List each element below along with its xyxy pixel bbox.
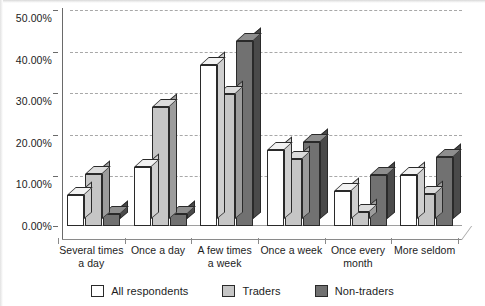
y-axis-tick-label: 50.00%	[16, 13, 52, 23]
bar-chart: 0.00%10.00%20.00%30.00%40.00%50.00% Seve…	[0, 0, 485, 306]
y-axis-tick	[53, 226, 58, 227]
legend-item: Traders	[222, 285, 280, 297]
bar-group	[200, 8, 253, 226]
bar	[134, 167, 151, 226]
bar-group	[134, 8, 187, 226]
x-axis-label-line: a week	[191, 257, 258, 270]
x-axis-category-label: Once a day	[125, 244, 192, 257]
x-axis-label-line: Once every	[325, 244, 392, 257]
y-axis-tick	[53, 176, 58, 177]
bar-side-face	[235, 80, 243, 219]
bar-front-face	[400, 175, 417, 226]
x-axis-label-line: month	[325, 257, 392, 270]
bar-group	[400, 8, 453, 226]
bar-side-face	[169, 94, 177, 219]
x-axis-category-label: More seldom	[391, 244, 458, 257]
y-axis-tick-label: 10.00%	[16, 179, 52, 189]
y-axis-tick-label: 30.00%	[16, 96, 52, 106]
bar-group	[67, 8, 120, 226]
x-axis-line	[62, 239, 462, 240]
y-axis-tick-label: 40.00%	[16, 55, 52, 65]
y-axis-tick	[53, 10, 58, 11]
bar-front-face	[370, 175, 387, 226]
x-axis-category-label: A few timesa week	[191, 244, 258, 269]
legend-item: Non-traders	[315, 285, 394, 297]
x-axis-category-label: Several timesa day	[58, 244, 125, 269]
y-axis-tick	[53, 52, 58, 53]
legend-swatch-icon	[222, 285, 235, 297]
bar-front-face	[200, 65, 217, 226]
x-axis-label-line: More seldom	[391, 244, 458, 257]
legend-label: All respondents	[111, 285, 188, 297]
y-axis-tick-label: 0.00%	[22, 221, 52, 231]
bar-side-face	[320, 129, 328, 219]
y-axis-tick-label: 20.00%	[16, 138, 52, 148]
bar-front-face	[267, 150, 284, 226]
bar	[267, 150, 284, 226]
x-axis-label-line: Several times	[58, 244, 125, 257]
bar-group	[334, 8, 387, 226]
x-axis-category-label: Once a week	[258, 244, 325, 257]
bar-front-face	[134, 167, 151, 226]
legend-swatch-icon	[315, 285, 328, 297]
plot-area	[62, 8, 462, 240]
bar	[370, 175, 387, 226]
x-axis-label-line: a day	[58, 257, 125, 270]
scan-edge-top	[0, 0, 485, 3]
x-axis-label-line: Once a day	[125, 244, 192, 257]
x-axis-tick	[458, 238, 459, 244]
bar	[400, 175, 417, 226]
x-axis-tick	[125, 238, 126, 244]
bar-front-face	[67, 195, 84, 226]
legend-label: Non-traders	[335, 285, 394, 297]
x-axis-tick	[258, 238, 259, 244]
x-axis-labels: Several timesa dayOnce a dayA few timesa…	[62, 244, 462, 280]
bar	[334, 191, 351, 226]
legend-item: All respondents	[91, 285, 188, 297]
x-axis-tick	[191, 238, 192, 244]
x-axis-tick	[391, 238, 392, 244]
y-axis: 0.00%10.00%20.00%30.00%40.00%50.00%	[0, 0, 58, 248]
bar-front-face	[334, 191, 351, 226]
legend-swatch-icon	[91, 285, 104, 297]
bar	[200, 65, 217, 226]
y-axis-tick	[53, 93, 58, 94]
bar	[67, 195, 84, 226]
legend-label: Traders	[242, 285, 280, 297]
chart-legend: All respondentsTradersNon-traders	[0, 280, 485, 302]
bar-side-face	[253, 27, 261, 219]
bar-groups	[62, 8, 462, 226]
x-axis-label-line: A few times	[191, 244, 258, 257]
y-axis-tick	[53, 135, 58, 136]
x-axis-tick	[325, 238, 326, 244]
bar-side-face	[217, 51, 225, 219]
floor-right-edge	[461, 226, 472, 240]
bar-group	[267, 8, 320, 226]
x-axis-label-line: Once a week	[258, 244, 325, 257]
x-axis-tick	[58, 238, 59, 244]
x-axis-category-label: Once everymonth	[325, 244, 392, 269]
